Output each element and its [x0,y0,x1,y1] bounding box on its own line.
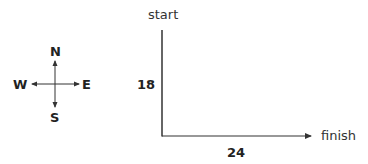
compass-south-label: S [50,111,59,124]
compass-north-label: N [50,45,61,58]
compass-rose [32,61,79,107]
diagram-canvas [0,0,368,164]
compass-east-label: E [82,78,91,91]
start-label: start [148,8,178,21]
path-diagram [162,30,311,137]
finish-label: finish [321,129,356,142]
compass-west-label: W [13,78,27,91]
vertical-length-label: 18 [137,78,155,91]
horizontal-length-label: 24 [227,146,245,159]
